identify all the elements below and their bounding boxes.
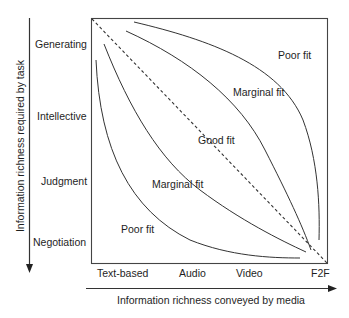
y-axis-title: Information richness required by task: [14, 60, 26, 232]
y-level-negotiation: Negotiation: [33, 236, 86, 248]
x-level-video: Video: [236, 267, 263, 279]
lower-inner-curve: [104, 44, 306, 252]
region-marginal-fit-lower: Marginal fit: [152, 178, 203, 190]
region-good-fit: Good fit: [198, 134, 235, 146]
y-level-intellective: Intellective: [37, 110, 87, 122]
region-poor-fit-lower: Poor fit: [121, 223, 154, 235]
region-marginal-fit-upper: Marginal fit: [233, 86, 284, 98]
x-axis-title: Information richness conveyed by media: [117, 294, 305, 306]
y-axis-arrowhead: [26, 264, 33, 273]
y-level-generating: Generating: [35, 38, 87, 50]
x-axis-arrowhead: [328, 285, 337, 292]
region-poor-fit-upper: Poor fit: [278, 49, 311, 61]
y-level-judgment: Judgment: [41, 175, 87, 187]
x-level-f2f: F2F: [311, 267, 330, 279]
x-level-audio: Audio: [179, 267, 206, 279]
x-level-text-based: Text-based: [97, 267, 148, 279]
